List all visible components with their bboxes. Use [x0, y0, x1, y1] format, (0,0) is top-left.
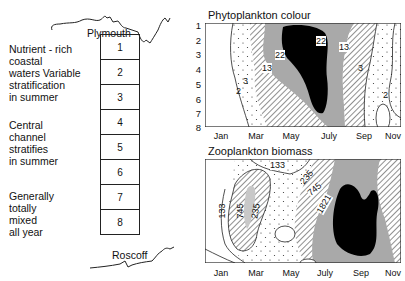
- contour-label: 2: [383, 90, 388, 100]
- zoo-chart-title: Zooplankton biomass: [208, 145, 313, 157]
- phyto-chart-title: Phytoplankton colour: [208, 9, 311, 21]
- zone-desc-central: Central channel stratifies in summer: [9, 119, 58, 167]
- contour-label: 22: [275, 50, 285, 60]
- station-3: 3: [101, 85, 139, 110]
- contour-label: 2: [236, 86, 241, 96]
- station-1: 1: [101, 35, 139, 60]
- contour-label: 13: [339, 42, 349, 52]
- station-4: 4: [101, 110, 139, 135]
- contour-label: 22: [316, 36, 326, 46]
- contour-label: 13: [262, 63, 272, 73]
- contour-label: 3: [358, 63, 363, 73]
- station-6: 6: [101, 160, 139, 185]
- contour-label: 133: [217, 203, 227, 218]
- contour-label: 133: [270, 160, 285, 170]
- contour-label: 745: [235, 203, 245, 218]
- station-2: 2: [101, 60, 139, 85]
- station-8: 8: [101, 210, 139, 234]
- station-strip: 1 2 3 4 5 6 7 8: [100, 34, 140, 235]
- zone-desc-coastal: Nutrient - rich coastal waters Variable …: [9, 43, 81, 103]
- zone-desc-mixed: Generally totally mixed all year: [9, 190, 54, 238]
- station-7: 7: [101, 185, 139, 210]
- station-5: 5: [101, 135, 139, 160]
- phyto-contour-plot: [205, 23, 401, 127]
- contour-label: 3: [243, 76, 248, 86]
